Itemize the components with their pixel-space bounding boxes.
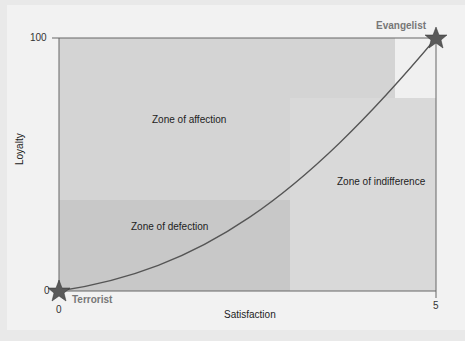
x-max-tick: 5	[433, 300, 439, 311]
terrorist-label: Terrorist	[72, 294, 112, 305]
evangelist-label: Evangelist	[376, 20, 426, 31]
x-axis-label: Satisfaction	[224, 309, 276, 320]
chart-canvas	[0, 0, 465, 341]
y-max-tick: 100	[30, 32, 47, 43]
y-min-tick: 0	[44, 285, 50, 296]
y-axis-label: Loyalty	[14, 133, 25, 165]
zone-defection-label: Zone of defection	[131, 221, 208, 232]
x-min-tick: 0	[56, 304, 62, 315]
zone-indifference-area	[290, 98, 436, 291]
zone-affection-label: Zone of affection	[152, 114, 226, 125]
zone-indifference-label: Zone of indifference	[337, 176, 425, 187]
